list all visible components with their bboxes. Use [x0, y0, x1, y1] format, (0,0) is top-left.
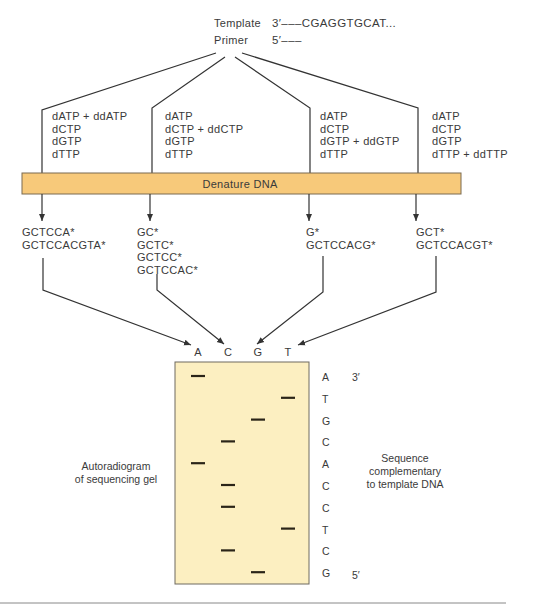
autoradiogram-caption-line1: Autoradiogram: [82, 460, 151, 472]
three-prime-end-label: 3′: [352, 371, 360, 383]
product-fragment: GCT*: [416, 226, 445, 238]
product-fragment: GCTCCACGTA*: [22, 239, 106, 251]
read-base: C: [322, 545, 330, 557]
product-fragment: GCTCCAC*: [137, 264, 198, 276]
sanger-sequencing-diagram: Template 3′–––CGAGGTGCAT... Primer 5′–––…: [0, 0, 548, 616]
reaction-mix-line: dCTP: [52, 123, 81, 135]
read-base: C: [322, 436, 330, 448]
read-sequence: ATGCACCTCG: [322, 371, 330, 579]
lane-label-a: A: [194, 346, 202, 358]
reaction-mix-line: dCTP: [320, 123, 349, 135]
reaction-mix-line: dGTP + ddGTP: [320, 135, 400, 147]
lane-label-t: T: [284, 346, 291, 358]
autoradiogram-caption-line2: of sequencing gel: [75, 473, 157, 485]
split-line-g: [235, 57, 310, 174]
product-fragment: GCTCC*: [137, 251, 183, 263]
lane-label-g: G: [254, 346, 263, 358]
reaction-mixes: dATP + ddATPdCTPdGTPdTTPdATPdCTP + ddCTP…: [52, 110, 508, 160]
reaction-mix-line: dTTP: [52, 148, 80, 160]
product-fragment: GCTCCACG*: [306, 239, 376, 251]
reaction-mix-line: dATP: [432, 110, 460, 122]
template-label: Template: [214, 17, 261, 29]
read-base: A: [322, 458, 329, 470]
reaction-mix-line: dTTP + ddTTP: [432, 148, 508, 160]
reaction-mix-line: dATP + ddATP: [52, 110, 127, 122]
product-fragment: GCTCCA*: [22, 226, 75, 238]
converge-line-t: [298, 256, 436, 345]
read-base: T: [322, 524, 329, 536]
reaction-mix-line: dATP: [165, 110, 193, 122]
reaction-mix-line: dGTP: [52, 135, 82, 147]
reaction-mix-line: dATP: [320, 110, 348, 122]
template-sequence: 3′–––CGAGGTGCAT...: [272, 17, 396, 29]
read-base: G: [322, 415, 330, 427]
five-prime-end-label: 5′: [352, 569, 360, 581]
read-base: A: [322, 371, 329, 383]
denature-dna-label: Denature DNA: [202, 178, 277, 190]
converge-line-g: [257, 256, 323, 344]
complementary-caption-line2: complementary: [369, 465, 442, 477]
reaction-mix-line: dGTP: [165, 135, 195, 147]
product-fragment: G*: [306, 226, 320, 238]
reaction-mix-line: dTTP: [165, 148, 193, 160]
lane-label-c: C: [224, 346, 232, 358]
primer-label: Primer: [214, 34, 248, 46]
gel-lane-labels: ACGT: [194, 346, 291, 358]
read-base: G: [322, 567, 330, 579]
sequencing-gel: [175, 362, 309, 584]
read-base: T: [322, 393, 329, 405]
complementary-caption-line1: Sequence: [381, 452, 428, 464]
product-fragment: GCTC*: [137, 239, 174, 251]
product-fragment: GC*: [137, 226, 159, 238]
product-fragment: GCTCCACGT*: [416, 239, 493, 251]
read-base: C: [322, 502, 330, 514]
reaction-mix-line: dTTP: [320, 148, 348, 160]
reaction-mix-line: dCTP + ddCTP: [165, 123, 243, 135]
reaction-mix-line: dGTP: [432, 135, 462, 147]
primer-sequence: 5′–––: [272, 34, 302, 46]
read-base: C: [322, 480, 330, 492]
product-fragments: GCTCCA*GCTCCACGTA*GC*GCTC*GCTCC*GCTCCAC*…: [22, 226, 493, 276]
reaction-mix-line: dCTP: [432, 123, 461, 135]
complementary-caption-line3: to template DNA: [366, 478, 443, 490]
converge-line-c: [157, 274, 224, 344]
